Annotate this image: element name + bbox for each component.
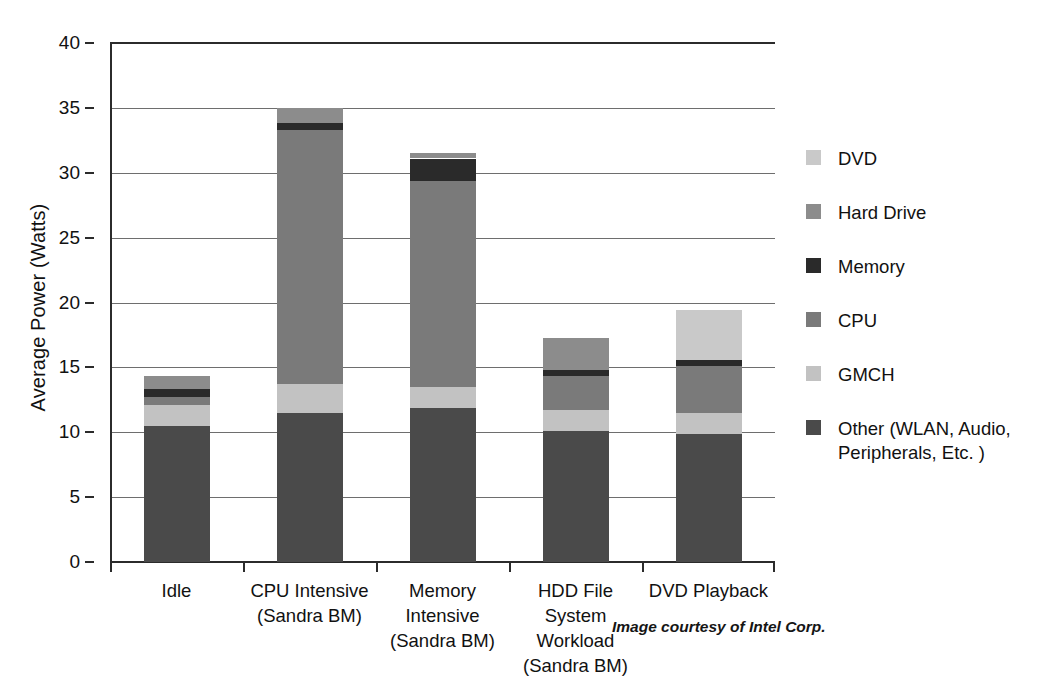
bar-segment (676, 434, 742, 562)
y-axis-tick-mark (85, 496, 94, 498)
bar-stack (277, 43, 343, 562)
bar-segment (676, 413, 742, 434)
bar-segment (277, 384, 343, 413)
legend-item: CPU (806, 310, 1046, 364)
bar-segment (543, 410, 609, 431)
y-axis-tick-label: 25 (40, 228, 80, 247)
bar-segment (676, 310, 742, 359)
bar-stack (410, 43, 476, 562)
y-axis-tick-mark (85, 172, 94, 174)
legend-label-line: GMCH (838, 363, 1053, 387)
plot-area: IdleCPU Intensive(Sandra BM)MemoryIntens… (110, 43, 775, 562)
x-axis-label: Idle (102, 578, 252, 603)
bar-segment (676, 366, 742, 413)
x-axis-tick-mark (376, 563, 378, 572)
legend-label-line: Memory (838, 255, 1053, 279)
x-axis-label: CPU Intensive(Sandra BM) (235, 578, 385, 628)
legend-item: DVD (806, 148, 1046, 202)
y-axis-tick-mark (85, 107, 94, 109)
legend-swatch (806, 258, 821, 273)
y-axis-tick-mark (85, 237, 94, 239)
legend-swatch (806, 312, 821, 327)
bar-stack (676, 43, 742, 562)
y-axis-tick-mark (85, 366, 94, 368)
bar-segment (543, 370, 609, 376)
bar-segment (410, 181, 476, 387)
x-axis-label-line: HDD File (501, 578, 651, 603)
x-axis-tick-mark (243, 563, 245, 572)
chart-legend: DVDHard DriveMemoryCPUGMCHOther (WLAN, A… (806, 148, 1046, 478)
x-axis-label: MemoryIntensive(Sandra BM) (368, 578, 518, 653)
bar-stack (543, 43, 609, 562)
legend-label-line: DVD (838, 147, 1053, 171)
x-axis-label-line: (Sandra BM) (368, 628, 518, 653)
x-axis-tick-mark (509, 563, 511, 572)
legend-swatch (806, 150, 821, 165)
x-axis-tick-mark (642, 563, 644, 572)
bar-segment (144, 389, 210, 397)
bar-segment (277, 108, 343, 124)
x-axis-label-line: Memory (368, 578, 518, 603)
x-axis-tick-mark (110, 563, 112, 572)
legend-item: GMCH (806, 364, 1046, 418)
legend-swatch (806, 420, 821, 435)
legend-label: GMCH (838, 363, 1053, 387)
y-axis-tick-label: 30 (40, 163, 80, 182)
bar-segment (144, 397, 210, 405)
bar-segment (410, 387, 476, 408)
legend-label: Other (WLAN, Audio,Peripherals, Etc. ) (838, 417, 1053, 465)
y-axis-tick-label: 10 (40, 422, 80, 441)
x-axis-tick-mark (773, 563, 775, 572)
legend-label: Memory (838, 255, 1053, 279)
x-axis-label-line: CPU Intensive (235, 578, 385, 603)
y-axis-tick-label: 20 (40, 293, 80, 312)
y-axis-tick-mark (85, 302, 94, 304)
x-axis-label-line: (Sandra BM) (501, 653, 651, 678)
y-axis-tick-mark (85, 431, 94, 433)
attribution-text: Image courtesy of Intel Corp. (612, 618, 826, 636)
bar-segment (144, 426, 210, 562)
legend-item: Other (WLAN, Audio,Peripherals, Etc. ) (806, 418, 1046, 478)
legend-label-line: Other (WLAN, Audio, (838, 417, 1053, 441)
bar-segment (410, 153, 476, 158)
bar-segment (144, 405, 210, 426)
y-axis-tick-label: 5 (40, 487, 80, 506)
y-axis-tick-mark (85, 561, 94, 563)
legend-item: Memory (806, 256, 1046, 310)
y-axis-tick-labels: 4035302520151050 (50, 43, 94, 562)
legend-label-line: CPU (838, 309, 1053, 333)
x-axis-label-line: Intensive (368, 603, 518, 628)
y-axis-tick-label: 0 (40, 552, 80, 571)
y-axis-tick-label: 40 (40, 33, 80, 52)
x-axis-label-line: DVD Playback (634, 578, 784, 603)
y-axis-tick-mark (85, 42, 94, 44)
legend-swatch (806, 204, 821, 219)
bar-segment (410, 159, 476, 181)
y-axis-line (110, 43, 112, 562)
x-axis-label-line: Idle (102, 578, 252, 603)
bar-segment (277, 130, 343, 384)
legend-label-line: Peripherals, Etc. ) (838, 441, 1053, 465)
legend-swatch (806, 366, 821, 381)
x-axis-label-line: (Sandra BM) (235, 603, 385, 628)
legend-label-line: Hard Drive (838, 201, 1053, 225)
bar-segment (543, 431, 609, 562)
bar-segment (676, 360, 742, 366)
bar-segment (410, 408, 476, 562)
legend-label: Hard Drive (838, 201, 1053, 225)
y-axis-tick-label: 35 (40, 98, 80, 117)
bar-segment (277, 123, 343, 129)
legend-item: Hard Drive (806, 202, 1046, 256)
chart-figure: Average Power (Watts) 4035302520151050 I… (0, 0, 1053, 699)
bar-segment (543, 338, 609, 370)
legend-label: CPU (838, 309, 1053, 333)
bar-stack (144, 43, 210, 562)
legend-label: DVD (838, 147, 1053, 171)
bar-segment (543, 376, 609, 410)
bar-segment (144, 376, 210, 389)
y-axis-tick-label: 15 (40, 357, 80, 376)
x-axis-label: DVD Playback (634, 578, 784, 603)
bar-segment (277, 413, 343, 562)
